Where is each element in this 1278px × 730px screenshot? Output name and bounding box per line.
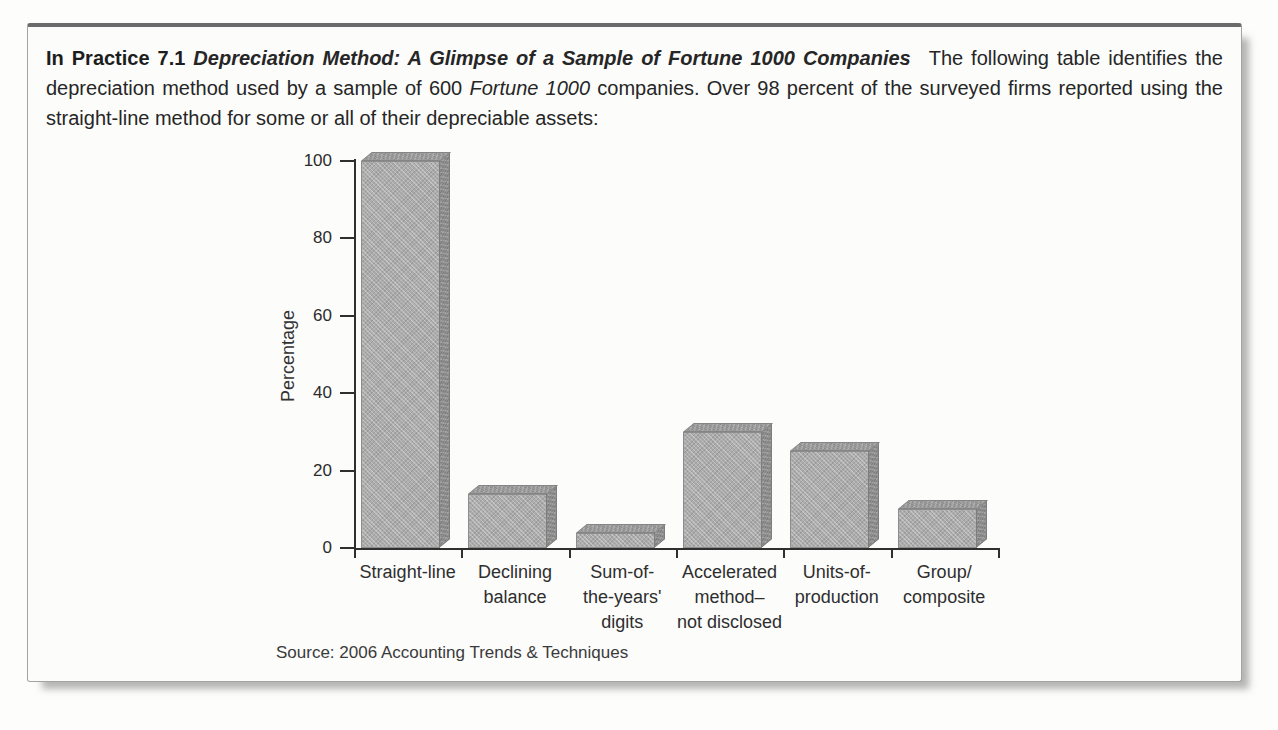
x-category-label: Straight-line	[346, 560, 470, 585]
bar-side	[439, 152, 450, 548]
bar-front	[576, 533, 655, 548]
page-background: In Practice 7.1 Depreciation Method: A G…	[0, 0, 1278, 730]
y-tick	[340, 160, 354, 162]
bar-front	[468, 494, 547, 548]
y-tick	[340, 547, 354, 549]
bar-top	[790, 442, 880, 451]
x-category-label: Group/ composite	[882, 560, 1006, 610]
bar-front	[898, 509, 977, 548]
bar-side	[546, 485, 557, 548]
y-tick-label: 80	[274, 228, 332, 248]
x-category-label: Accelerated method– not disclosed	[668, 560, 792, 635]
x-tick	[461, 550, 463, 558]
bar-top	[576, 524, 666, 533]
bar-top	[361, 152, 451, 161]
y-tick	[340, 470, 354, 472]
in-practice-box: In Practice 7.1 Depreciation Method: A G…	[27, 23, 1242, 682]
bar-top	[468, 485, 558, 494]
bar-chart: 020406080100PercentageStraight-lineDecli…	[28, 27, 1241, 681]
bar-side	[761, 423, 772, 548]
y-tick	[340, 392, 354, 394]
x-tick	[998, 550, 1000, 558]
bar-front	[683, 432, 762, 548]
x-tick	[783, 550, 785, 558]
y-axis-title: Percentage	[278, 309, 299, 401]
y-tick-label: 0	[274, 538, 332, 558]
y-axis-line	[354, 159, 356, 550]
y-tick	[340, 237, 354, 239]
x-tick	[891, 550, 893, 558]
bar-top	[898, 500, 988, 509]
x-tick	[354, 550, 356, 558]
x-tick	[569, 550, 571, 558]
x-category-label: Units-of- production	[775, 560, 899, 610]
x-category-label: Declining balance	[453, 560, 577, 610]
bar-top	[683, 423, 773, 432]
bar-front	[790, 451, 869, 548]
y-tick-label: 100	[274, 151, 332, 171]
y-tick	[340, 315, 354, 317]
x-tick	[676, 550, 678, 558]
bar-front	[361, 161, 440, 548]
source-note: Source: 2006 Accounting Trends & Techniq…	[276, 643, 628, 663]
bar-side	[868, 442, 879, 548]
x-category-label: Sum-of- the-years' digits	[560, 560, 684, 635]
y-tick-label: 20	[274, 461, 332, 481]
